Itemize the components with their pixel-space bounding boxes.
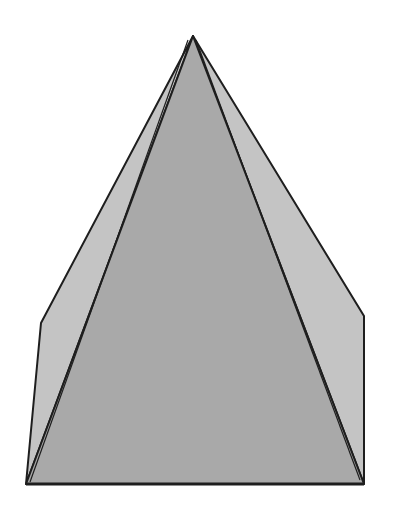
pyramid-diagram [0,0,406,513]
